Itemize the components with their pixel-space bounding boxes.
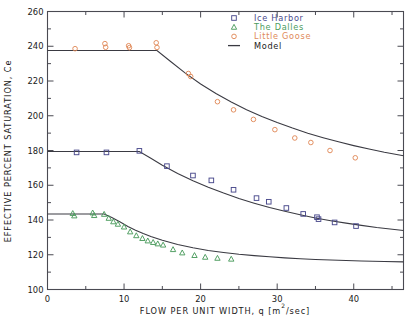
major-tick-group <box>48 12 404 290</box>
data-point-marker <box>251 117 256 122</box>
data-point-marker <box>180 250 185 255</box>
y-tick-label: 240 <box>28 41 44 51</box>
chart-legend: Ice HarborThe DallesLittle GooseModel <box>228 13 311 51</box>
y-tick-label: 220 <box>28 76 44 86</box>
data-point-marker <box>150 240 155 245</box>
data-point-marker <box>292 136 297 141</box>
y-tick-label: 160 <box>28 180 44 190</box>
legend-marker-circle <box>232 34 237 39</box>
data-point-marker <box>284 206 289 211</box>
data-point-marker <box>104 150 109 155</box>
x-tick-label: 20 <box>195 294 206 304</box>
data-point-marker <box>328 148 333 153</box>
legend-marker-triangle <box>231 24 236 29</box>
data-point-marker <box>254 196 259 201</box>
chart-figure: 010203040100120140160180200220240260 Ice… <box>0 0 415 324</box>
data-point-marker <box>192 253 197 258</box>
y-tick-label: 140 <box>28 215 44 225</box>
plot-frame <box>48 12 404 290</box>
data-point-marker <box>128 229 133 234</box>
data-point-marker <box>353 156 358 161</box>
data-point-marker <box>231 108 236 113</box>
x-tick-label: 40 <box>348 294 359 304</box>
x-tick-label: 0 <box>45 294 50 304</box>
data-point-marker <box>160 242 165 247</box>
model-curve <box>48 152 404 231</box>
data-point-marker <box>155 45 160 50</box>
data-point-marker <box>229 256 234 261</box>
data-point-marker <box>145 238 150 243</box>
model-curve-group <box>48 51 404 262</box>
legend-label: Model <box>254 41 282 51</box>
data-point-marker <box>155 241 160 246</box>
data-point-marker <box>209 178 214 183</box>
model-curve <box>48 51 404 156</box>
y-tick-label: 260 <box>28 7 44 17</box>
y-tick-label: 100 <box>28 285 44 295</box>
y-tick-label: 180 <box>28 146 44 156</box>
data-point-marker <box>191 173 196 178</box>
data-point-marker <box>140 236 145 241</box>
data-point-marker <box>215 99 220 104</box>
x-tick-label: 10 <box>119 294 130 304</box>
y-tick-label: 200 <box>28 111 44 121</box>
data-point-marker <box>134 233 139 238</box>
plot-canvas: 010203040100120140160180200220240260 Ice… <box>0 0 415 324</box>
legend-marker-square <box>232 16 237 21</box>
data-point-marker <box>203 254 208 259</box>
data-point-marker <box>231 187 236 192</box>
data-point-marker <box>266 199 271 204</box>
y-tick-label: 120 <box>28 250 44 260</box>
data-point-marker <box>154 40 159 45</box>
data-point-marker <box>170 247 175 252</box>
data-point-marker <box>215 255 220 260</box>
y-axis-label: EFFECTIVE PERCENT SATURATION, Ce <box>3 60 13 243</box>
data-point-marker <box>273 127 278 132</box>
model-curve <box>48 214 404 262</box>
data-marker-group <box>70 40 358 261</box>
data-point-marker <box>309 140 314 145</box>
x-axis-label: FLOW PER UNIT WIDTH, q [m2/sec] <box>140 302 310 317</box>
minor-tick-group <box>48 12 404 290</box>
data-point-marker <box>74 150 79 155</box>
